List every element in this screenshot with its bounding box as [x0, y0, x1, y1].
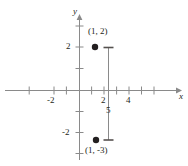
distance-measure-segment — [104, 48, 114, 141]
x-tick-label-4: 4 — [126, 96, 131, 105]
x-axis-label: x — [179, 92, 183, 101]
plot-canvas — [0, 0, 188, 166]
y-axis-label: y — [73, 7, 77, 16]
x-tick-label-neg2: -2 — [47, 96, 55, 105]
y-tick-label-neg2: -2 — [62, 128, 70, 137]
x-tick-label-2: 2 — [101, 96, 106, 105]
x-axis — [5, 87, 182, 95]
distance-measure-label: 5 — [106, 106, 111, 115]
y-tick-label-2: 2 — [66, 42, 71, 51]
data-point-lower — [93, 137, 99, 143]
point-label-lower: (1, -3) — [85, 146, 108, 155]
data-point-upper — [92, 44, 98, 50]
data-points — [92, 44, 99, 143]
coordinate-plane-figure: x y -2 2 4 2 -2 (1, 2) (1, -3) 5 — [0, 0, 188, 166]
y-axis — [76, 14, 84, 160]
point-label-upper: (1, 2) — [88, 27, 108, 36]
